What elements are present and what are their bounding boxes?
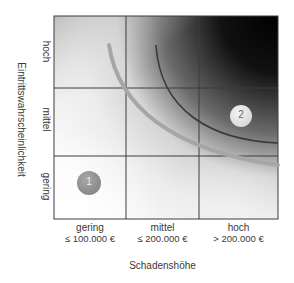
y-tick-hoch: hoch — [41, 32, 52, 72]
x-tick-mittel-range: ≤ 200.000 € — [126, 233, 199, 244]
y-tick-mittel: mittel — [41, 100, 52, 140]
x-tick-gering-label: gering — [54, 222, 126, 233]
x-tick-mittel-label: mittel — [126, 222, 199, 233]
marker-2-label: 2 — [235, 109, 247, 120]
x-tick-gering-range: ≤ 100.000 € — [54, 233, 126, 244]
y-tick-gering: gering — [41, 167, 52, 207]
x-axis-title: Schadenshöhe — [126, 260, 199, 271]
x-tick-hoch-range: > 200.000 € — [199, 233, 278, 244]
marker-1-label: 1 — [83, 176, 95, 187]
x-tick-hoch-label: hoch — [199, 222, 278, 233]
x-tick-mittel: mittel ≤ 200.000 € — [126, 222, 199, 244]
x-tick-gering: gering ≤ 100.000 € — [54, 222, 126, 244]
x-tick-hoch: hoch > 200.000 € — [199, 222, 278, 244]
y-axis-title: Eintrittswahrscheinlichkeit — [16, 45, 27, 195]
